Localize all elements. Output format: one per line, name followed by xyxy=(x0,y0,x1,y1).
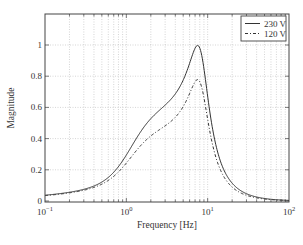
tick-marks xyxy=(45,14,289,202)
y-axis-label: Magnitude xyxy=(6,87,16,128)
y-tick-label: 0.6 xyxy=(31,102,43,112)
x-axis-label: Frequency [Hz] xyxy=(137,220,197,230)
curve-120v xyxy=(45,80,289,201)
curves xyxy=(45,45,289,200)
y-tick-label: 0.4 xyxy=(31,134,43,144)
y-tick-label: 1 xyxy=(38,40,43,50)
x-tick-label: 101 xyxy=(202,205,214,217)
x-tick-label: 102 xyxy=(283,205,295,217)
y-tick-label: 0 xyxy=(38,196,43,206)
magnitude-frequency-chart: 00.20.40.60.81 10−1100101102 Frequency [… xyxy=(0,0,303,245)
x-tick-label: 10−1 xyxy=(37,205,53,217)
x-tick-labels: 10−1100101102 xyxy=(37,205,295,217)
y-tick-label: 0.2 xyxy=(31,165,42,175)
y-tick-label: 0.8 xyxy=(31,71,43,81)
legend: 230 V 120 V xyxy=(241,16,287,41)
x-tick-label: 100 xyxy=(120,205,132,217)
legend-label-230v: 230 V xyxy=(264,19,287,29)
plot-frame xyxy=(45,14,289,202)
grid-lines xyxy=(45,14,289,202)
legend-label-120v: 120 V xyxy=(264,29,287,39)
curve-230v xyxy=(45,45,289,200)
y-tick-labels: 00.20.40.60.81 xyxy=(31,40,43,206)
